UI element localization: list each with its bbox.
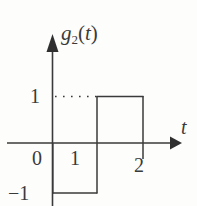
y-tick-label-negative-one: −1 [8, 183, 29, 203]
x-tick-label-two: 2 [134, 155, 144, 175]
x-tick-label-zero: 0 [32, 148, 42, 168]
function-label-open-paren: ( [78, 21, 85, 45]
figure-container: g2(t) 1 −1 0 1 2 t [0, 0, 197, 206]
x-tick-label-one: 1 [70, 148, 80, 168]
t-axis-arrowhead [170, 137, 182, 150]
t-axis-label: t [181, 117, 187, 137]
g-axis-arrowhead [47, 34, 59, 52]
function-label-close-paren: ) [91, 21, 98, 45]
function-label: g2(t) [61, 23, 98, 46]
y-tick-label-one: 1 [30, 86, 40, 106]
function-label-base: g [61, 21, 72, 45]
